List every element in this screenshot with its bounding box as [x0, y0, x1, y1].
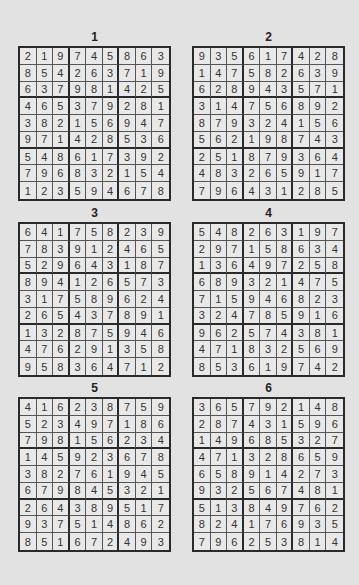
grid-cell: 6	[86, 466, 103, 483]
grid-cell: 3	[37, 325, 54, 342]
grid-cell: 5	[103, 483, 120, 500]
grid-cell: 1	[119, 165, 136, 182]
grid-cell: 2	[227, 325, 244, 342]
grid-cell: 4	[37, 149, 54, 166]
grid-cell: 3	[103, 258, 120, 275]
grid-cell: 8	[152, 182, 169, 199]
sudoku-grid: 2197458638542637196379814254653792813821…	[18, 46, 171, 201]
grid-cell: 7	[211, 449, 228, 466]
grid-cell: 5	[103, 325, 120, 342]
grid-cell: 1	[152, 308, 169, 325]
grid-cell: 2	[260, 115, 277, 132]
grid-cell: 1	[244, 241, 261, 258]
grid-cell: 9	[53, 48, 70, 65]
grid-cell: 5	[227, 291, 244, 308]
grid-cell: 4	[136, 115, 153, 132]
grid-cell: 5	[37, 358, 54, 375]
grid-cell: 5	[293, 341, 310, 358]
grid-cell: 3	[277, 224, 294, 241]
grid-cell: 4	[211, 433, 228, 450]
grid-cell: 4	[326, 533, 343, 550]
sudoku-grid: 9356174281475826396289435713147568928793…	[192, 46, 345, 201]
grid-cell: 7	[53, 516, 70, 533]
grid-cell: 3	[227, 165, 244, 182]
grid-cell: 8	[211, 274, 228, 291]
grid-cell: 8	[277, 241, 294, 258]
grid-cell: 2	[244, 165, 261, 182]
grid-cell: 2	[53, 325, 70, 342]
grid-cell: 7	[70, 224, 87, 241]
grid-cell: 7	[152, 500, 169, 517]
grid-cell: 8	[136, 416, 153, 433]
grid-cell: 7	[136, 182, 153, 199]
grid-cell: 8	[260, 308, 277, 325]
grid-cell: 9	[244, 291, 261, 308]
grid-cell: 6	[103, 115, 120, 132]
grid-cell: 6	[86, 65, 103, 82]
grid-cell: 1	[211, 500, 228, 517]
grid-cell: 6	[53, 399, 70, 416]
grid-cell: 4	[277, 115, 294, 132]
grid-cell: 8	[293, 291, 310, 308]
grid-cell: 9	[194, 48, 211, 65]
grid-cell: 4	[194, 449, 211, 466]
grid-cell: 9	[326, 449, 343, 466]
grid-cell: 6	[70, 258, 87, 275]
grid-cell: 4	[70, 308, 87, 325]
grid-cell: 3	[70, 358, 87, 375]
grid-cell: 9	[20, 132, 37, 149]
grid-cell: 1	[194, 258, 211, 275]
grid-cell: 7	[152, 258, 169, 275]
grid-cell: 5	[211, 149, 228, 166]
grid-cell: 1	[20, 325, 37, 342]
grid-cell: 5	[86, 433, 103, 450]
grid-cell: 2	[119, 433, 136, 450]
puzzle-number: 3	[18, 207, 171, 219]
sudoku-grid: 3657921482874315961496853274713286596589…	[192, 397, 345, 552]
grid-cell: 7	[119, 65, 136, 82]
grid-cell: 3	[86, 308, 103, 325]
grid-cell: 7	[194, 182, 211, 199]
grid-cell: 6	[277, 98, 294, 115]
grid-cell: 1	[103, 82, 120, 99]
grid-cell: 8	[20, 65, 37, 82]
grid-cell: 8	[152, 449, 169, 466]
grid-cell: 4	[152, 165, 169, 182]
grid-cell: 3	[37, 516, 54, 533]
grid-cell: 6	[194, 274, 211, 291]
grid-cell: 2	[326, 500, 343, 517]
grid-cell: 8	[53, 149, 70, 166]
grid-cell: 6	[260, 483, 277, 500]
grid-cell: 1	[70, 433, 87, 450]
grid-cell: 1	[136, 65, 153, 82]
grid-cell: 5	[260, 98, 277, 115]
grid-cell: 6	[260, 224, 277, 241]
grid-cell: 3	[37, 82, 54, 99]
grid-cell: 5	[86, 115, 103, 132]
grid-cell: 7	[70, 466, 87, 483]
grid-cell: 7	[37, 483, 54, 500]
grid-cell: 9	[194, 325, 211, 342]
grid-cell: 4	[310, 358, 327, 375]
grid-cell: 3	[53, 241, 70, 258]
grid-cell: 1	[293, 399, 310, 416]
grid-cell: 7	[20, 241, 37, 258]
grid-cell: 8	[103, 399, 120, 416]
grid-cell: 7	[326, 224, 343, 241]
grid-cell: 9	[86, 182, 103, 199]
grid-cell: 3	[260, 341, 277, 358]
grid-cell: 6	[310, 149, 327, 166]
grid-cell: 2	[244, 533, 261, 550]
grid-cell: 6	[152, 416, 169, 433]
grid-cell: 4	[103, 358, 120, 375]
grid-cell: 9	[152, 399, 169, 416]
grid-cell: 3	[194, 98, 211, 115]
grid-cell: 2	[86, 132, 103, 149]
grid-cell: 3	[244, 449, 261, 466]
grid-cell: 4	[194, 165, 211, 182]
grid-cell: 2	[326, 98, 343, 115]
grid-cell: 3	[53, 416, 70, 433]
grid-cell: 7	[20, 433, 37, 450]
grid-cell: 2	[103, 165, 120, 182]
grid-cell: 1	[136, 500, 153, 517]
